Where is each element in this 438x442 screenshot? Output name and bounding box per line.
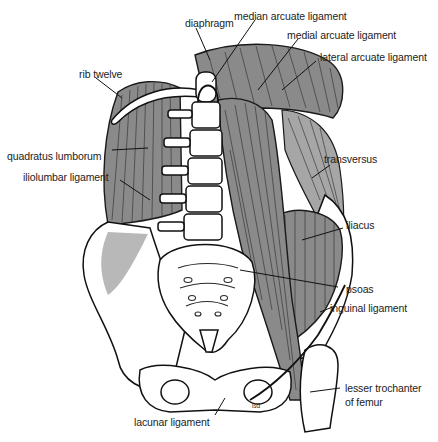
label-inguinal-ligament: inguinal ligament <box>330 302 407 314</box>
label-lacunar-ligament: lacunar ligament <box>134 416 209 428</box>
label-transversus: transversus <box>324 153 377 165</box>
label-median-arcuate-ligament: median arcuate ligament <box>234 10 347 22</box>
label-diaphragm: diaphragm <box>185 17 234 29</box>
artist-signature: ßd <box>252 400 260 412</box>
label-of-femur: of femur <box>345 396 383 408</box>
left-obturator-foramen <box>161 380 189 404</box>
label-medial-arcuate-ligament: medial arcuate ligament <box>287 29 396 41</box>
label-psoas: psoas <box>346 283 374 295</box>
label-quadratus-lumborum: quadratus lumborum <box>7 150 102 162</box>
label-lesser-trochanter: lesser trochanter <box>345 382 422 394</box>
femur-shape <box>300 345 338 432</box>
anatomy-figure: diaphragm median arcuate ligament medial… <box>0 0 438 442</box>
label-rib-twelve: rib twelve <box>79 68 122 80</box>
label-iliolumbar-ligament: iliolumbar ligament <box>23 171 109 183</box>
label-iliacus: iliacus <box>346 219 374 231</box>
label-lateral-arcuate-ligament: lateral arcuate ligament <box>320 51 427 63</box>
